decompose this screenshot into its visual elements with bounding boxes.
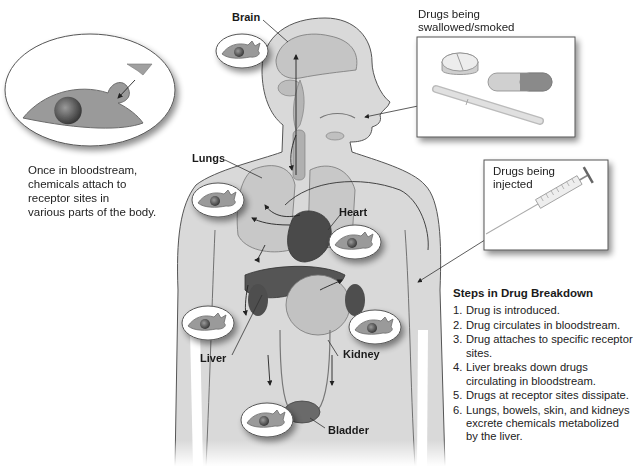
label-heart: Heart [339, 206, 367, 218]
label-liver: Liver [200, 352, 226, 364]
swallowed-drugs-box [417, 37, 575, 137]
step-item: 1.Drug is introduced. [453, 304, 633, 317]
label-brain: Brain [232, 11, 260, 23]
step-item: 3.Drug attaches to specific receptor sit… [453, 333, 633, 359]
steps-panel: Steps in Drug Breakdown 1.Drug is introd… [453, 287, 633, 445]
injected-box-title: Drugs being injected [493, 165, 555, 191]
step-item: 4.Liver breaks down drugs circulating in… [453, 361, 633, 387]
swallowed-box-title: Drugs being swallowed/smoked [418, 8, 515, 34]
step-item: 2.Drug circulates in bloodstream. [453, 319, 633, 332]
steps-title: Steps in Drug Breakdown [453, 287, 633, 299]
step-item: 6.Lungs, bowels, skin, and kidneys excre… [453, 404, 633, 444]
steps-list: 1.Drug is introduced. 2.Drug circulates … [453, 304, 633, 444]
label-bladder: Bladder [328, 424, 369, 436]
label-kidney: Kidney [343, 348, 380, 360]
step-item: 5.Drugs at receptor sites dissipate. [453, 389, 633, 402]
label-lungs: Lungs [192, 152, 225, 164]
receptor-caption: Once in bloodstream, chemicals attach to… [28, 163, 188, 219]
receptor-attachment-oval [5, 34, 175, 146]
